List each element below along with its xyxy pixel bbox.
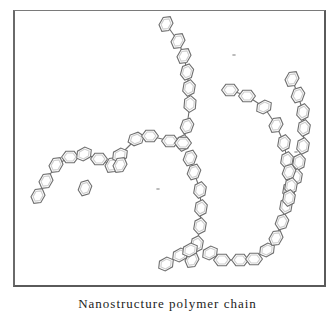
chain-right-middle	[222, 84, 294, 168]
artifact-speck	[232, 54, 236, 56]
artifact-speck	[294, 151, 298, 153]
artifact-speck	[156, 188, 160, 190]
chain-left-stray	[78, 180, 92, 196]
chain-left-arc	[31, 130, 191, 203]
chain-bottom-arc	[203, 182, 296, 266]
chain-top-left-arm	[159, 17, 196, 152]
figure-caption: Nanostructure polymer chain	[0, 296, 335, 312]
